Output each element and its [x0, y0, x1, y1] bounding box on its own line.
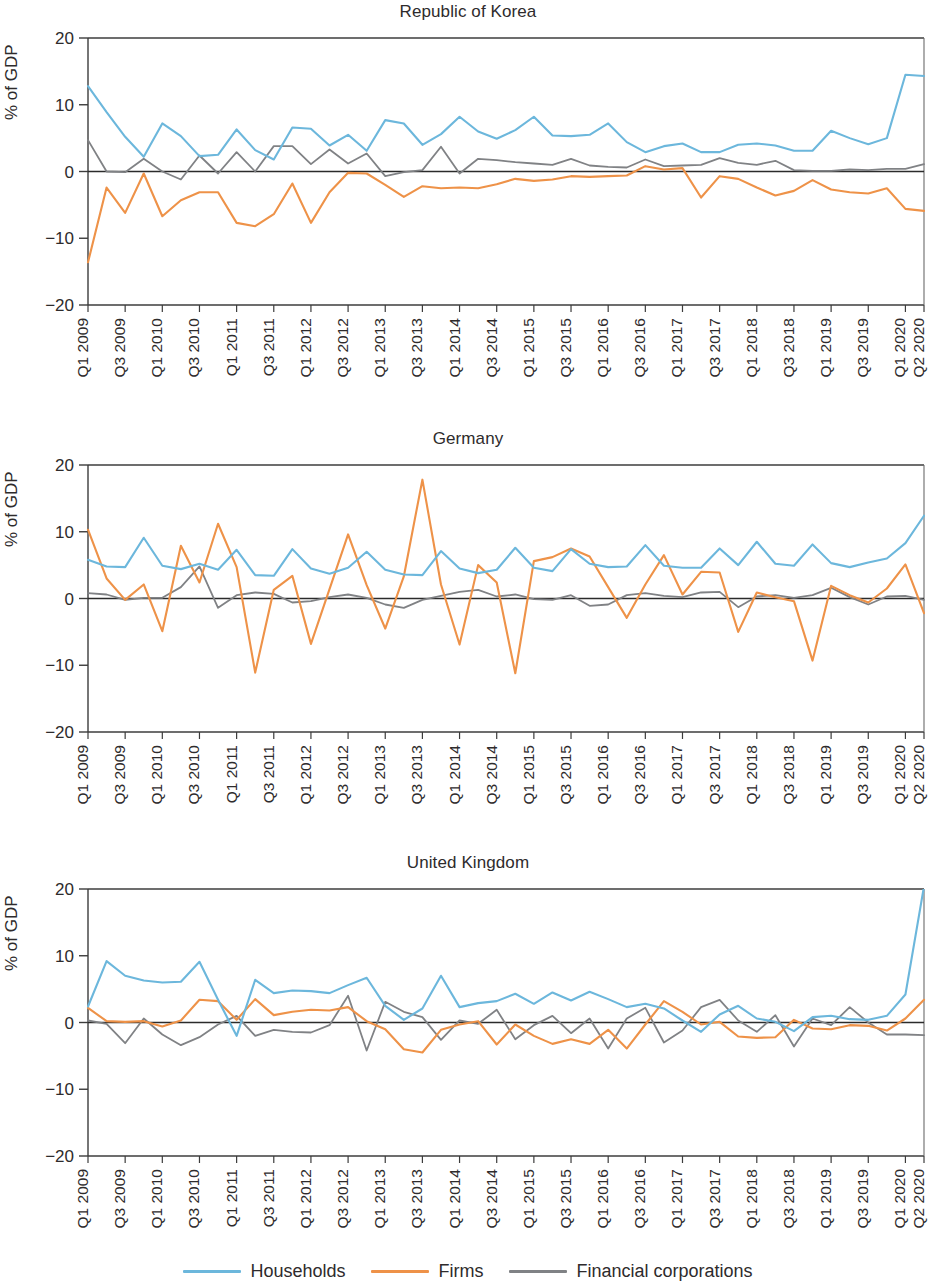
chart-panel-united-kingdom: United Kingdom % of GDP −20−1001020Q1 20… — [0, 851, 936, 1271]
line-swatch-icon — [371, 1270, 429, 1273]
y-axis-tick-label: 20 — [55, 29, 74, 48]
x-axis-tick-label: Q3 2013 — [408, 1169, 425, 1228]
series-line-households — [88, 886, 924, 1036]
x-axis-tick-label: Q1 2013 — [371, 318, 388, 377]
y-axis-tick-label: −10 — [45, 656, 74, 675]
x-axis-tick-label: Q3 2014 — [483, 1169, 500, 1229]
legend-item-firms: Firms — [371, 1261, 483, 1282]
y-axis-tick-label: −20 — [45, 1147, 74, 1166]
x-axis-tick-label: Q3 2009 — [111, 318, 128, 377]
figure-panel-group: Republic of Korea % of GDP −20−1001020Q1… — [0, 0, 936, 1287]
x-axis-tick-label: Q1 2015 — [520, 745, 537, 804]
x-axis-tick-label: Q1 2018 — [743, 318, 760, 377]
legend-label: Firms — [438, 1261, 483, 1282]
series-line-firms — [88, 166, 924, 262]
x-axis-tick-label: Q1 2018 — [743, 1169, 760, 1228]
y-axis-tick-label: −10 — [45, 229, 74, 248]
x-axis-tick-label: Q3 2009 — [111, 745, 128, 804]
legend-label: Households — [250, 1261, 345, 1282]
x-axis-tick-label: Q3 2010 — [185, 318, 202, 378]
x-axis-tick-label: Q3 2014 — [483, 318, 500, 378]
x-axis-tick-label: Q3 2017 — [706, 318, 723, 377]
x-axis-tick-label: Q1 2009 — [74, 745, 91, 804]
x-axis-tick-label: Q3 2011 — [260, 745, 277, 803]
x-axis-tick-label: Q3 2019 — [854, 745, 871, 804]
x-axis-tick-label: Q3 2018 — [780, 1169, 797, 1228]
x-axis-tick-label: Q2 2020 — [910, 745, 927, 805]
x-axis-tick-label: Q3 2014 — [483, 745, 500, 805]
y-axis-tick-label: −20 — [45, 723, 74, 742]
chart-panel-germany: Germany % of GDP −20−1001020Q1 2009Q3 20… — [0, 427, 936, 847]
x-axis-tick-label: Q2 2020 — [910, 318, 927, 378]
x-axis-tick-label: Q1 2009 — [74, 1169, 91, 1228]
x-axis-tick-label: Q1 2016 — [594, 1169, 611, 1228]
x-axis-tick-label: Q1 2010 — [148, 745, 165, 805]
y-axis-tick-label: 20 — [55, 880, 74, 899]
y-axis-tick-label: 0 — [65, 590, 74, 609]
y-axis-tick-label: 10 — [55, 96, 74, 115]
x-axis-tick-label: Q1 2016 — [594, 745, 611, 804]
x-axis-tick-label: Q1 2011 — [223, 745, 240, 803]
chart-panel-korea: Republic of Korea % of GDP −20−1001020Q1… — [0, 0, 936, 420]
plot-area: −20−1001020Q1 2009Q3 2009Q1 2010Q3 2010Q… — [0, 0, 936, 420]
x-axis-tick-label: Q3 2015 — [557, 318, 574, 377]
line-swatch-icon — [509, 1270, 567, 1273]
x-axis-tick-label: Q1 2014 — [446, 1169, 463, 1229]
x-axis-tick-label: Q3 2012 — [334, 1169, 351, 1228]
x-axis-tick-label: Q3 2018 — [780, 745, 797, 804]
x-axis-tick-label: Q3 2010 — [185, 745, 202, 805]
x-axis-tick-label: Q3 2010 — [185, 1169, 202, 1229]
x-axis-tick-label: Q1 2009 — [74, 318, 91, 377]
x-axis-tick-label: Q1 2017 — [668, 1169, 685, 1228]
x-axis-tick-label: Q1 2011 — [223, 1169, 240, 1227]
x-axis-tick-label: Q3 2016 — [631, 745, 648, 804]
x-axis-tick-label: Q1 2014 — [446, 318, 463, 378]
x-axis-tick-label: Q1 2019 — [817, 318, 834, 377]
x-axis-tick-label: Q1 2012 — [297, 745, 314, 804]
x-axis-tick-label: Q3 2015 — [557, 1169, 574, 1228]
y-axis-tick-label: 20 — [55, 456, 74, 475]
series-line-financial-corporations — [88, 566, 924, 607]
x-axis-tick-label: Q1 2010 — [148, 318, 165, 378]
y-axis-tick-label: 10 — [55, 523, 74, 542]
x-axis-tick-label: Q1 2012 — [297, 318, 314, 377]
x-axis-tick-label: Q3 2017 — [706, 745, 723, 804]
x-axis-tick-label: Q3 2018 — [780, 318, 797, 377]
x-axis-tick-label: Q3 2012 — [334, 745, 351, 804]
x-axis-tick-label: Q3 2017 — [706, 1169, 723, 1228]
line-swatch-icon — [183, 1270, 241, 1273]
x-axis-tick-label: Q1 2019 — [817, 1169, 834, 1228]
x-axis-tick-label: Q1 2015 — [520, 1169, 537, 1228]
x-axis-tick-label: Q3 2013 — [408, 318, 425, 377]
x-axis-tick-label: Q3 2011 — [260, 1169, 277, 1227]
x-axis-tick-label: Q1 2014 — [446, 745, 463, 805]
x-axis-tick-label: Q3 2012 — [334, 318, 351, 377]
x-axis-tick-label: Q1 2017 — [668, 318, 685, 377]
x-axis-tick-label: Q1 2020 — [891, 1169, 908, 1229]
x-axis-tick-label: Q2 2020 — [910, 1169, 927, 1229]
y-axis-tick-label: −20 — [45, 296, 74, 315]
y-axis-tick-label: −10 — [45, 1080, 74, 1099]
legend-item-households: Households — [183, 1261, 345, 1282]
series-line-households — [88, 516, 924, 576]
series-line-financial-corporations — [88, 140, 924, 179]
x-axis-tick-label: Q1 2018 — [743, 745, 760, 804]
x-axis-tick-label: Q3 2011 — [260, 318, 277, 376]
x-axis-tick-label: Q3 2015 — [557, 745, 574, 804]
chart-legend: Households Firms Financial corporations — [0, 1255, 936, 1287]
x-axis-tick-label: Q1 2015 — [520, 318, 537, 377]
x-axis-tick-label: Q1 2017 — [668, 745, 685, 804]
x-axis-tick-label: Q3 2016 — [631, 318, 648, 377]
x-axis-tick-label: Q1 2010 — [148, 1169, 165, 1229]
x-axis-tick-label: Q1 2020 — [891, 318, 908, 378]
x-axis-tick-label: Q1 2012 — [297, 1169, 314, 1228]
x-axis-tick-label: Q3 2019 — [854, 318, 871, 377]
y-axis-tick-label: 10 — [55, 947, 74, 966]
legend-item-financial-corporations: Financial corporations — [509, 1261, 752, 1282]
x-axis-tick-label: Q3 2019 — [854, 1169, 871, 1228]
x-axis-tick-label: Q1 2016 — [594, 318, 611, 377]
x-axis-tick-label: Q3 2016 — [631, 1169, 648, 1228]
series-line-firms — [88, 480, 924, 674]
plot-area: −20−1001020Q1 2009Q3 2009Q1 2010Q3 2010Q… — [0, 427, 936, 847]
x-axis-tick-label: Q1 2013 — [371, 1169, 388, 1228]
